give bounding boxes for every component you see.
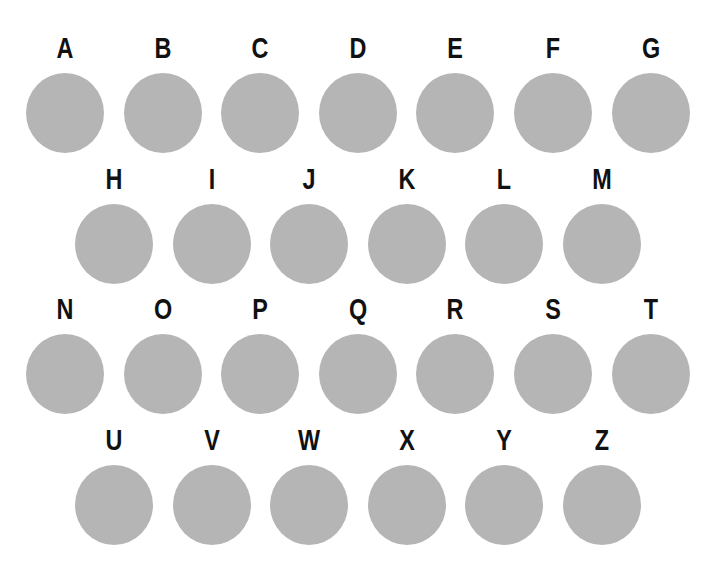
gray-circle[interactable] xyxy=(563,204,641,284)
letter-label: R xyxy=(424,294,486,324)
letter-label: V xyxy=(180,425,242,455)
letter-cell-z[interactable]: Z xyxy=(562,425,642,555)
letter-cell-n[interactable]: N xyxy=(25,294,105,424)
letter-label: T xyxy=(619,294,681,324)
gray-circle[interactable] xyxy=(368,465,446,545)
letter-label: K xyxy=(376,164,438,194)
letter-label: A xyxy=(34,33,96,63)
letter-cell-v[interactable]: V xyxy=(172,425,252,555)
letter-cell-f[interactable]: F xyxy=(513,33,593,163)
gray-circle[interactable] xyxy=(124,73,202,153)
letter-label: F xyxy=(522,33,584,63)
gray-circle[interactable] xyxy=(612,334,690,414)
letter-cell-x[interactable]: X xyxy=(367,425,447,555)
gray-circle[interactable] xyxy=(416,334,494,414)
gray-circle[interactable] xyxy=(75,204,153,284)
letter-label: O xyxy=(131,294,193,324)
gray-circle[interactable] xyxy=(368,204,446,284)
gray-circle[interactable] xyxy=(465,465,543,545)
letter-cell-p[interactable]: P xyxy=(220,294,300,424)
letter-cell-j[interactable]: J xyxy=(269,164,349,294)
letter-cell-o[interactable]: O xyxy=(123,294,203,424)
letter-label: C xyxy=(229,33,291,63)
gray-circle[interactable] xyxy=(514,334,592,414)
gray-circle[interactable] xyxy=(514,73,592,153)
letter-label: U xyxy=(83,425,145,455)
letter-cell-b[interactable]: B xyxy=(123,33,203,163)
gray-circle[interactable] xyxy=(221,334,299,414)
letter-label: W xyxy=(278,425,340,455)
letter-cell-k[interactable]: K xyxy=(367,164,447,294)
gray-circle[interactable] xyxy=(75,465,153,545)
letter-cell-c[interactable]: C xyxy=(220,33,300,163)
letter-cell-q[interactable]: Q xyxy=(318,294,398,424)
letter-label: H xyxy=(83,164,145,194)
letter-cell-a[interactable]: A xyxy=(25,33,105,163)
gray-circle[interactable] xyxy=(319,73,397,153)
letter-cell-l[interactable]: L xyxy=(464,164,544,294)
letter-cell-i[interactable]: I xyxy=(172,164,252,294)
letter-cell-w[interactable]: W xyxy=(269,425,349,555)
letter-label: E xyxy=(424,33,486,63)
letter-label: P xyxy=(229,294,291,324)
gray-circle[interactable] xyxy=(26,334,104,414)
letter-cell-h[interactable]: H xyxy=(74,164,154,294)
gray-circle[interactable] xyxy=(173,465,251,545)
gray-circle[interactable] xyxy=(416,73,494,153)
letter-label: N xyxy=(34,294,96,324)
letter-label: M xyxy=(571,164,633,194)
gray-circle[interactable] xyxy=(173,204,251,284)
letter-label: Y xyxy=(473,425,535,455)
letter-label: X xyxy=(376,425,438,455)
gray-circle[interactable] xyxy=(221,73,299,153)
letter-label: L xyxy=(473,164,535,194)
letter-label: S xyxy=(522,294,584,324)
letter-label: J xyxy=(278,164,340,194)
letter-label: D xyxy=(327,33,389,63)
letter-cell-y[interactable]: Y xyxy=(464,425,544,555)
letter-cell-g[interactable]: G xyxy=(611,33,691,163)
letter-cell-s[interactable]: S xyxy=(513,294,593,424)
letter-cell-e[interactable]: E xyxy=(415,33,495,163)
gray-circle[interactable] xyxy=(465,204,543,284)
gray-circle[interactable] xyxy=(319,334,397,414)
letter-label: G xyxy=(619,33,681,63)
letter-cell-u[interactable]: U xyxy=(74,425,154,555)
letter-label: Q xyxy=(327,294,389,324)
gray-circle[interactable] xyxy=(563,465,641,545)
gray-circle[interactable] xyxy=(612,73,690,153)
gray-circle[interactable] xyxy=(26,73,104,153)
gray-circle[interactable] xyxy=(124,334,202,414)
letter-label: I xyxy=(180,164,242,194)
letter-cell-m[interactable]: M xyxy=(562,164,642,294)
letter-cell-t[interactable]: T xyxy=(611,294,691,424)
letter-cell-d[interactable]: D xyxy=(318,33,398,163)
letter-label: B xyxy=(131,33,193,63)
letter-label: Z xyxy=(571,425,633,455)
gray-circle[interactable] xyxy=(270,465,348,545)
gray-circle[interactable] xyxy=(270,204,348,284)
letter-cell-r[interactable]: R xyxy=(415,294,495,424)
